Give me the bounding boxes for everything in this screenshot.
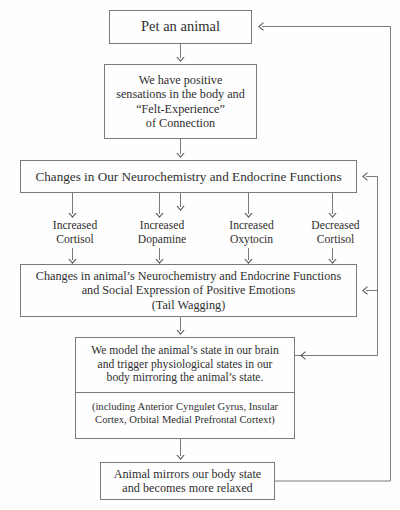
- node-animal-mirrors-relaxed: Animal mirrors our body state and become…: [100, 462, 275, 500]
- node-line: sensations in the body and: [116, 87, 245, 101]
- node-line: Animal mirrors our body state: [114, 467, 262, 481]
- branch-label-increased-cortisol: Increased Cortisol: [30, 219, 120, 246]
- branch-line: Cortisol: [288, 233, 383, 247]
- branch-line: Oxytocin: [204, 233, 299, 247]
- flowchart-canvas: Pet an animal We have positive sensation…: [0, 0, 400, 510]
- branch-label-increased-dopamine: Increased Dopamine: [112, 219, 212, 246]
- node-line: We have positive: [139, 73, 223, 87]
- node-line: (including Anterior Cyngulet Gyrus, Insu…: [92, 401, 278, 414]
- branch-line: Cortisol: [30, 233, 120, 247]
- node-line: We model the animal’s state in our brain: [91, 344, 278, 358]
- node-line: body mirroring the animal’s state.: [107, 371, 264, 385]
- branch-line: Increased: [112, 219, 212, 233]
- node-line: of Connection: [146, 116, 215, 130]
- node-line: Cortex, Orbital Medial Prefrontal Cortex…: [95, 414, 275, 427]
- node-our-neurochemistry: Changes in Our Neurochemistry and Endocr…: [20, 160, 357, 193]
- branch-line: Increased: [204, 219, 299, 233]
- node-pet-an-animal: Pet an animal: [109, 10, 252, 44]
- node-model-state-primary: We model the animal’s state in our brain…: [76, 338, 294, 392]
- node-line: “Felt-Experience”: [136, 102, 225, 116]
- node-line: Pet an animal: [141, 18, 220, 35]
- node-model-animal-state: We model the animal’s state in our brain…: [75, 337, 295, 439]
- branch-line: Dopamine: [112, 233, 212, 247]
- node-animal-neurochemistry: Changes in animal’s Neurochemistry and E…: [20, 264, 357, 317]
- node-line: (Tail Wagging): [152, 298, 225, 312]
- branch-line: Decreased: [288, 219, 383, 233]
- node-positive-sensations: We have positive sensations in the body …: [104, 64, 257, 139]
- node-line: Changes in animal’s Neurochemistry and E…: [36, 269, 341, 283]
- node-line: and becomes more relaxed: [122, 481, 252, 495]
- branch-label-increased-oxytocin: Increased Oxytocin: [204, 219, 299, 246]
- branch-label-decreased-cortisol: Decreased Cortisol: [288, 219, 383, 246]
- branch-line: Increased: [30, 219, 120, 233]
- node-line: Changes in Our Neurochemistry and Endocr…: [35, 169, 341, 185]
- node-model-state-brain-regions: (including Anterior Cyngulet Gyrus, Insu…: [76, 393, 294, 432]
- node-line: and Social Expression of Positive Emotio…: [82, 283, 296, 297]
- node-line: and trigger physiological states in our: [98, 358, 273, 372]
